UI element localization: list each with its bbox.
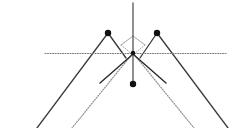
ray-solid-left-outer (37, 33, 108, 128)
ray-solid-right-upper-cross (140, 33, 157, 58)
point-marker-vertex (131, 51, 135, 55)
ray-solid-right-outer (157, 33, 228, 128)
ray-solid-left-upper-cross (108, 33, 126, 58)
ray-diamond-right-edge (133, 36, 145, 45)
figure-svg (0, 0, 237, 128)
point-marker-upper-right-source (154, 30, 160, 36)
axis-group (45, 3, 226, 84)
ray-diagram-canvas (0, 0, 237, 128)
ray-dark-left-stub (100, 55, 132, 83)
ray-dark-right-stub (134, 55, 166, 83)
ray-dotted-left-fan (72, 53, 133, 128)
ray-dotted-right-fan (133, 53, 194, 128)
point-marker-lower-center-focus (130, 81, 136, 87)
ray-diamond-left-edge (121, 36, 133, 45)
point-marker-upper-left-source (105, 30, 111, 36)
